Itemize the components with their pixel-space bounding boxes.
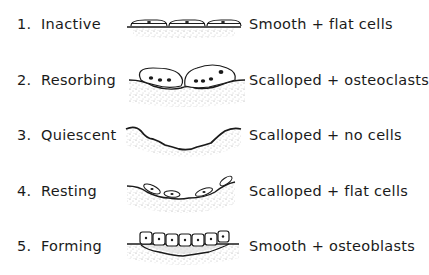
empty-scalloped-surface-illustration — [123, 115, 248, 159]
state-description: Scalloped + no cells — [249, 127, 402, 143]
state-description: Scalloped + osteoclasts — [249, 72, 429, 88]
state-description: Smooth + flat cells — [249, 16, 393, 32]
state-label: Forming — [41, 238, 102, 254]
row-quiescent: 3. Quiescent Scalloped + no cells — [0, 127, 428, 167]
row-number: 4. — [17, 183, 31, 199]
state-description: Smooth + osteoblasts — [249, 238, 415, 254]
state-label: Resorbing — [41, 72, 116, 88]
state-description: Scalloped + flat cells — [249, 183, 408, 199]
row-number: 3. — [17, 127, 31, 143]
osteoblasts-on-smooth-surface-illustration — [123, 222, 248, 266]
row-number: 1. — [17, 16, 31, 32]
row-resting: 4. Resting Scalloped + flat cells — [0, 183, 428, 223]
row-number: 5. — [17, 238, 31, 254]
flat-cells-scalloped-surface-illustration — [123, 168, 248, 212]
osteoclasts-on-scalloped-surface-illustration — [123, 58, 248, 102]
row-number: 2. — [17, 72, 31, 88]
state-label: Resting — [41, 183, 97, 199]
row-resorbing: 2. Resorbing Scalloped + osteoclasts — [0, 70, 428, 110]
state-label: Inactive — [41, 16, 101, 32]
row-forming: 5. Forming — [0, 238, 428, 275]
flat-cells-smooth-surface-illustration — [123, 6, 248, 50]
row-inactive: 1. Inactive Smooth + flat cells — [0, 16, 428, 56]
state-label: Quiescent — [41, 127, 117, 143]
